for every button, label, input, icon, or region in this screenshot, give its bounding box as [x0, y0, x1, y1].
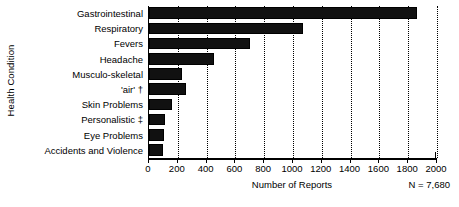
x-axis-tick-label: 1600 — [368, 163, 389, 174]
x-axis-tick-label: 1200 — [310, 163, 331, 174]
x-axis-tick-label: 1800 — [397, 163, 418, 174]
x-axis-tick-label: 1000 — [281, 163, 302, 174]
bar-row — [149, 128, 437, 143]
bar-row — [149, 143, 437, 158]
bar-row — [149, 112, 437, 127]
sample-size-annotation: N = 7,680 — [409, 179, 450, 190]
bar-row — [149, 82, 437, 97]
category-label: Headache — [100, 52, 143, 67]
category-label: Musculo-skeletal — [72, 67, 143, 82]
bar — [149, 68, 182, 80]
x-axis-tick-label: 0 — [145, 163, 150, 174]
x-axis-tick-label: 2000 — [425, 163, 446, 174]
bar-row — [149, 67, 437, 82]
category-label: 'air' † — [121, 82, 143, 97]
category-label: Accidents and Violence — [44, 143, 143, 158]
bar — [149, 83, 186, 95]
category-label: Personalistic ‡ — [81, 112, 143, 127]
x-axis-tick-label: 800 — [255, 163, 271, 174]
bar-chart-figure: Health Condition GastrointestinalRespira… — [0, 0, 459, 207]
bar-row — [149, 97, 437, 112]
category-label: Respiratory — [94, 21, 143, 36]
bar — [149, 114, 165, 126]
gridline — [437, 6, 438, 158]
bar-row — [149, 21, 437, 36]
category-label-column: GastrointestinalRespiratoryFeversHeadach… — [22, 6, 146, 158]
x-axis-tick-label: 400 — [198, 163, 214, 174]
x-axis-title: Number of Reports — [148, 179, 436, 190]
y-axis-title-text: Health Condition — [6, 44, 17, 116]
bar — [149, 7, 417, 19]
bar — [149, 23, 303, 35]
category-label: Skin Problems — [82, 97, 143, 112]
y-axis-title: Health Condition — [0, 0, 22, 160]
bar-row — [149, 6, 437, 21]
bar-row — [149, 52, 437, 67]
category-label: Gastrointestinal — [77, 6, 143, 21]
bar — [149, 129, 164, 141]
bar — [149, 144, 163, 156]
x-axis-tick-label: 600 — [226, 163, 242, 174]
bar — [149, 99, 172, 111]
bar — [149, 38, 250, 50]
x-axis-tick-label: 200 — [169, 163, 185, 174]
x-axis-tick-label: 1400 — [339, 163, 360, 174]
plot-area — [148, 6, 437, 158]
bar-row — [149, 36, 437, 51]
category-label: Eye Problems — [84, 128, 143, 143]
bar — [149, 53, 214, 65]
category-label: Fevers — [114, 36, 143, 51]
